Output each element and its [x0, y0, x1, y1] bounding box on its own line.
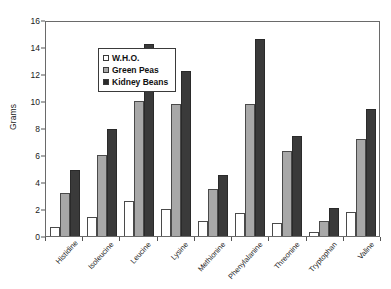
chart-legend: W.H.O.Green PeasKidney Beans	[98, 48, 176, 92]
y-axis-tick-label: 10	[16, 98, 40, 107]
y-axis-tick-mark	[41, 237, 45, 238]
y-axis-tick-label: 8	[16, 125, 40, 134]
legend-item: Kidney Beans	[103, 76, 168, 88]
bar	[366, 109, 376, 236]
x-axis-tick-label: Histidine	[54, 240, 78, 266]
bar	[134, 101, 144, 236]
bar	[50, 227, 60, 236]
y-axis-tick-mark	[41, 183, 45, 184]
bar	[198, 221, 208, 236]
legend-swatch-icon	[103, 55, 109, 61]
legend-label: W.H.O.	[112, 54, 139, 63]
bar	[87, 217, 97, 236]
y-axis-tick-label: 14	[16, 44, 40, 53]
y-axis-tick-labels: 0246810121416	[16, 0, 40, 289]
bar	[255, 39, 265, 236]
bar	[60, 193, 70, 236]
bar	[356, 139, 366, 236]
y-axis-tick-label: 2	[16, 206, 40, 215]
bar	[319, 221, 329, 236]
bar	[70, 170, 80, 236]
legend-item: W.H.O.	[103, 52, 168, 64]
bar	[218, 175, 228, 236]
bar-group	[194, 22, 231, 236]
y-axis-tick-mark	[41, 21, 45, 22]
bar	[161, 209, 171, 236]
bar-chart: Grams 0246810121416 W.H.O.Green PeasKidn…	[0, 0, 391, 289]
bar	[124, 201, 134, 236]
y-axis-tick-label: 4	[16, 179, 40, 188]
bar	[97, 155, 107, 236]
y-axis-tick-label: 6	[16, 152, 40, 161]
bar-group	[46, 22, 83, 236]
y-axis-tick-mark	[41, 48, 45, 49]
bar	[329, 208, 339, 236]
y-axis-tick-label: 12	[16, 71, 40, 80]
bar	[235, 213, 245, 236]
legend-swatch-icon	[103, 67, 109, 73]
bar-group	[231, 22, 268, 236]
bar	[346, 212, 356, 236]
legend-swatch-icon	[103, 79, 109, 85]
legend-item: Green Peas	[103, 64, 168, 76]
bar	[292, 136, 302, 236]
y-axis-tick-mark	[41, 210, 45, 211]
y-axis-tick-mark	[41, 75, 45, 76]
bar	[208, 189, 218, 236]
plot-area: W.H.O.Green PeasKidney Beans	[45, 21, 380, 237]
bar-group	[268, 22, 305, 236]
y-axis-tick-mark	[41, 102, 45, 103]
bar	[107, 129, 117, 236]
bar-group	[342, 22, 379, 236]
legend-label: Green Peas	[112, 66, 159, 75]
bar	[309, 232, 319, 236]
bar	[181, 71, 191, 236]
y-axis-tick-mark	[41, 129, 45, 130]
bar	[171, 104, 181, 236]
bars-layer	[46, 22, 379, 236]
y-axis-tick-mark	[41, 156, 45, 157]
x-axis-tick-labels: HistidineIsoleucineLeucineLysineMethioni…	[45, 240, 380, 289]
bar	[272, 223, 282, 237]
legend-label: Kidney Beans	[112, 78, 168, 87]
y-axis-tick-label: 0	[16, 233, 40, 242]
bar-group	[305, 22, 342, 236]
x-axis-tick-mark	[380, 237, 381, 241]
y-axis-tick-label: 16	[16, 17, 40, 26]
bar	[245, 104, 255, 236]
bar	[282, 151, 292, 236]
